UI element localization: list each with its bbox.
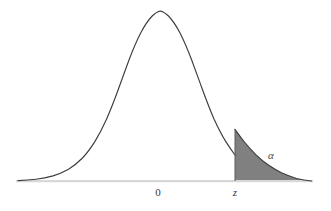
axis-label-critical-value: z	[228, 187, 242, 198]
tail-area-alpha-label: α	[263, 150, 279, 161]
normal-curve-chart	[0, 0, 331, 211]
normal-distribution-curve	[18, 11, 235, 181]
axis-label-mean: 0	[151, 187, 165, 198]
figure-canvas: 0 z α	[0, 0, 331, 211]
